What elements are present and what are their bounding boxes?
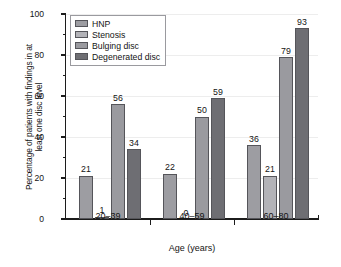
bar-value-label: 93	[297, 17, 307, 27]
bar	[279, 57, 294, 219]
legend-label: Degenerated disc	[92, 52, 160, 62]
y-tick-label: 0	[22, 214, 44, 224]
x-group-tick	[150, 219, 151, 225]
bar	[247, 145, 262, 219]
legend-swatch	[75, 20, 88, 27]
bar	[211, 98, 226, 219]
bar-chart: Percentage of patients with findings in …	[0, 0, 341, 267]
x-axis-title: Age (years)	[66, 243, 318, 253]
y-tick-mark	[61, 177, 66, 178]
y-minor-tick-mark	[63, 75, 66, 76]
bar-value-label: 34	[129, 138, 139, 148]
x-group-label: 20–39	[95, 211, 120, 221]
bar	[295, 28, 310, 219]
x-axis-right-tick	[318, 215, 319, 220]
legend-item: Bulging disc	[75, 40, 160, 51]
legend-item: HNP	[75, 18, 160, 29]
y-tick-mark	[61, 54, 66, 55]
bar-value-label: 59	[213, 87, 223, 97]
y-minor-tick-mark	[63, 116, 66, 117]
y-tick-mark	[61, 136, 66, 137]
y-minor-tick-mark	[63, 34, 66, 35]
bar	[163, 174, 178, 219]
y-tick-label: 100	[22, 9, 44, 19]
bar	[111, 104, 126, 219]
x-group-label: 40–59	[179, 211, 204, 221]
legend-item: Stenosis	[75, 29, 160, 40]
y-tick-label: 80	[22, 50, 44, 60]
bar-value-label: 56	[113, 93, 123, 103]
y-minor-tick-mark	[63, 198, 66, 199]
legend-swatch	[75, 31, 88, 38]
x-group-tick	[234, 219, 235, 225]
bar	[79, 176, 94, 219]
y-tick-mark	[61, 13, 66, 14]
y-minor-tick-mark	[63, 157, 66, 158]
y-tick-mark	[61, 95, 66, 96]
legend-label: Bulging disc	[92, 41, 139, 51]
bar-value-label: 21	[81, 164, 91, 174]
bar-value-label: 21	[265, 164, 275, 174]
bar	[195, 117, 210, 220]
bar	[127, 149, 142, 219]
bar-value-label: 22	[165, 162, 175, 172]
legend-item: Degenerated disc	[75, 51, 160, 62]
y-tick-label: 60	[22, 91, 44, 101]
y-axis-tick-labels: 020406080100	[22, 0, 44, 267]
legend-label: Stenosis	[92, 30, 125, 40]
legend-label: HNP	[92, 19, 110, 29]
bar-value-label: 36	[249, 134, 259, 144]
legend-swatch	[75, 53, 88, 60]
bar-value-label: 50	[197, 105, 207, 115]
bar-value-label: 79	[281, 46, 291, 56]
y-tick-label: 20	[22, 173, 44, 183]
legend-swatch	[75, 42, 88, 49]
x-group-label: 60–80	[263, 211, 288, 221]
y-tick-mark	[61, 218, 66, 219]
y-tick-label: 40	[22, 132, 44, 142]
legend: HNPStenosisBulging discDegenerated disc	[70, 15, 166, 66]
